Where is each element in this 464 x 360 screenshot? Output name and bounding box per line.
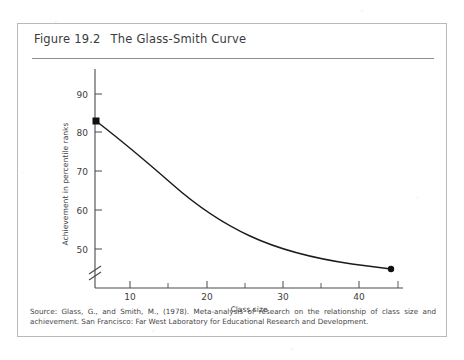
data-curve [96, 121, 391, 269]
glass-smith-curve-chart: 90 80 70 60 50 10 20 30 40 Achievement i… [18, 24, 448, 338]
figure-container: Figure 19.2The Glass-Smith Curve 90 [17, 23, 447, 337]
y-tick-label-80: 80 [77, 128, 89, 138]
y-tick-label-50: 50 [77, 245, 89, 255]
x-tick-label-20: 20 [201, 292, 213, 302]
source-note: Source: Glass, G., and Smith, M., (1978)… [30, 307, 436, 328]
x-axis-ticks [130, 281, 398, 288]
data-point-marker-start [93, 118, 100, 125]
x-tick-label-10: 10 [124, 292, 136, 302]
x-tick-label-30: 30 [277, 292, 289, 302]
x-tick-label-40: 40 [353, 292, 365, 302]
chart-plot-area: 90 80 70 60 50 10 20 30 40 Achievement i… [18, 24, 448, 338]
y-axis-title: Achievement in percentile ranks [61, 122, 70, 245]
y-tick-label-70: 70 [77, 167, 89, 177]
y-tick-label-60: 60 [77, 206, 89, 216]
y-axis-ticks [95, 94, 102, 249]
data-point-marker-end [388, 266, 394, 272]
y-tick-label-90: 90 [77, 90, 89, 100]
